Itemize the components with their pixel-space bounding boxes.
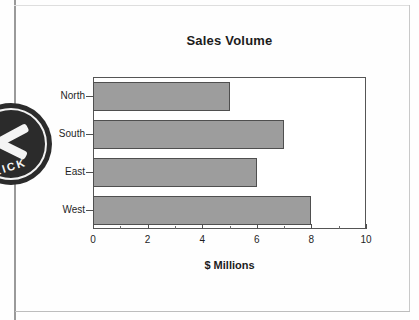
x-axis-title: $ Millions	[93, 259, 366, 271]
bar-chart: Sales Volume NorthSouthEastWest 0246810 …	[0, 0, 419, 320]
x-axis-minor-tick	[175, 226, 176, 229]
x-axis-minor-tick	[339, 226, 340, 229]
x-axis-tick	[257, 224, 258, 229]
y-axis-tick	[86, 134, 93, 135]
y-axis-tick-label: East	[23, 166, 85, 177]
x-axis-minor-tick	[230, 226, 231, 229]
y-axis-tick	[86, 210, 93, 211]
y-axis-tick-label: South	[23, 128, 85, 139]
x-axis-tick-label: 4	[187, 234, 217, 245]
y-axis-tick-label: North	[23, 90, 85, 101]
chart-title: Sales Volume	[93, 33, 366, 48]
y-axis-tick	[86, 172, 93, 173]
x-axis-tick-label: 10	[351, 234, 381, 245]
bar	[93, 196, 311, 225]
y-axis-tick	[86, 96, 93, 97]
x-axis-minor-tick	[284, 226, 285, 229]
x-axis-tick-label: 2	[133, 234, 163, 245]
bar	[93, 82, 230, 111]
y-axis-tick-label: West	[23, 204, 85, 215]
x-axis-tick	[93, 224, 94, 229]
x-axis-tick	[202, 224, 203, 229]
x-axis-tick	[148, 224, 149, 229]
x-axis-minor-tick	[120, 226, 121, 229]
x-axis-tick-label: 0	[78, 234, 108, 245]
scanned-page: RICK Sales Volume NorthSouthEastWest 024…	[0, 0, 419, 320]
x-axis-tick-label: 8	[296, 234, 326, 245]
x-axis-tick	[366, 224, 367, 229]
x-axis-tick	[311, 224, 312, 229]
bar	[93, 158, 257, 187]
x-axis-tick-label: 6	[242, 234, 272, 245]
bar	[93, 120, 284, 149]
